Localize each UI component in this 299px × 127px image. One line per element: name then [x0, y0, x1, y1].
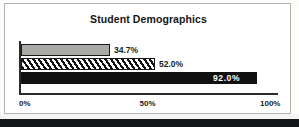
x-axis-tick-labels: 0% 50% 100%: [19, 99, 280, 111]
x-tick-label: 100%: [260, 99, 280, 109]
chart-frame: Student Demographics 34.7% 52.0% 92.0% 0…: [4, 3, 291, 114]
bar-value-label: 52.0%: [159, 58, 183, 70]
bar-value-label: 34.7%: [114, 44, 138, 56]
plot-area: 34.7% 52.0% 92.0%: [19, 41, 278, 95]
x-axis-line: [19, 93, 278, 95]
chart-title: Student Demographics: [5, 13, 292, 25]
bar-series-1[interactable]: [21, 44, 110, 56]
scan-edge-strip: [0, 119, 299, 127]
bar-series-2[interactable]: [21, 58, 155, 70]
scanned-page-background: Student Demographics 34.7% 52.0% 92.0% 0…: [0, 0, 299, 127]
x-tick-label: 0%: [19, 99, 31, 109]
bar-value-label: 92.0%: [213, 72, 240, 84]
x-tick-label: 50%: [140, 99, 156, 109]
